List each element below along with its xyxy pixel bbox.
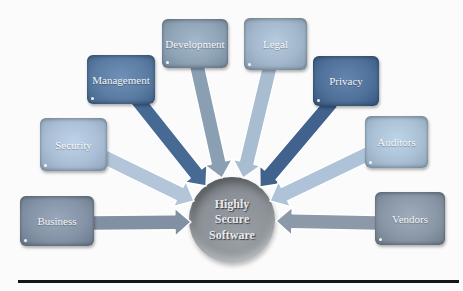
node-auditors-label: Auditors bbox=[377, 136, 416, 148]
node-security-label: Security bbox=[55, 139, 92, 151]
node-development: Development bbox=[162, 19, 228, 68]
node-vendors-label: Vendors bbox=[392, 213, 428, 225]
node-privacy: Privacy bbox=[313, 56, 379, 106]
node-management-label: Management bbox=[92, 74, 149, 86]
node-privacy-label: Privacy bbox=[329, 75, 363, 87]
corner-highlight bbox=[24, 239, 27, 242]
node-management: Management bbox=[87, 55, 155, 104]
corner-highlight bbox=[44, 164, 47, 167]
bottom-rule bbox=[18, 280, 459, 283]
corner-highlight bbox=[91, 97, 94, 100]
node-development-label: Development bbox=[165, 38, 224, 50]
corner-highlight bbox=[369, 161, 372, 164]
corner-highlight bbox=[317, 99, 320, 102]
corner-highlight bbox=[166, 61, 169, 64]
node-vendors: Vendors bbox=[375, 192, 445, 245]
node-business: Business bbox=[20, 196, 94, 246]
corner-highlight bbox=[379, 238, 382, 241]
node-legal-label: Legal bbox=[263, 38, 288, 50]
node-business-label: Business bbox=[37, 215, 76, 227]
node-auditors: Auditors bbox=[365, 116, 428, 168]
diagram-converging-arrows: Highly Secure Software Business Security… bbox=[0, 0, 463, 291]
node-security: Security bbox=[40, 118, 107, 171]
corner-highlight bbox=[248, 63, 251, 66]
node-legal: Legal bbox=[244, 18, 307, 70]
arrow-vendors bbox=[276, 207, 378, 235]
arrow-business bbox=[92, 208, 191, 236]
arrow-legal bbox=[233, 64, 277, 178]
